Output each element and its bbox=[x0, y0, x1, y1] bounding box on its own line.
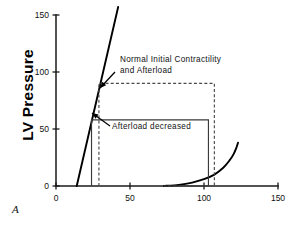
panel-letter: A bbox=[12, 203, 19, 215]
y-tick-label: 100 bbox=[35, 67, 49, 77]
x-tick-label: 100 bbox=[197, 193, 211, 203]
normal-loop-annotation-line-1: Normal Initial Contractility bbox=[120, 55, 222, 64]
pressure-volume-figure: LV Pressure 050100150 050100150 Normal I… bbox=[0, 0, 300, 226]
y-tick-label: 50 bbox=[40, 124, 50, 134]
series-normal bbox=[99, 83, 214, 186]
x-tick-label: 0 bbox=[54, 193, 59, 203]
axes bbox=[56, 15, 278, 186]
x-tick-label: 150 bbox=[271, 193, 285, 203]
series-espvr bbox=[77, 7, 118, 186]
y-tick-label: 150 bbox=[35, 10, 49, 20]
data-series bbox=[77, 7, 238, 186]
normal-loop-annotation-line-2: and Afterload bbox=[120, 66, 172, 75]
x-tick-label: 50 bbox=[125, 193, 135, 203]
afterload-decreased-annotation-line-1: Afterload decreased bbox=[112, 122, 191, 131]
y-tick-label: 0 bbox=[44, 181, 49, 191]
pressure-volume-plot: 050100150 050100150 Normal Initial Contr… bbox=[0, 0, 300, 226]
series-edpvr bbox=[164, 143, 238, 186]
